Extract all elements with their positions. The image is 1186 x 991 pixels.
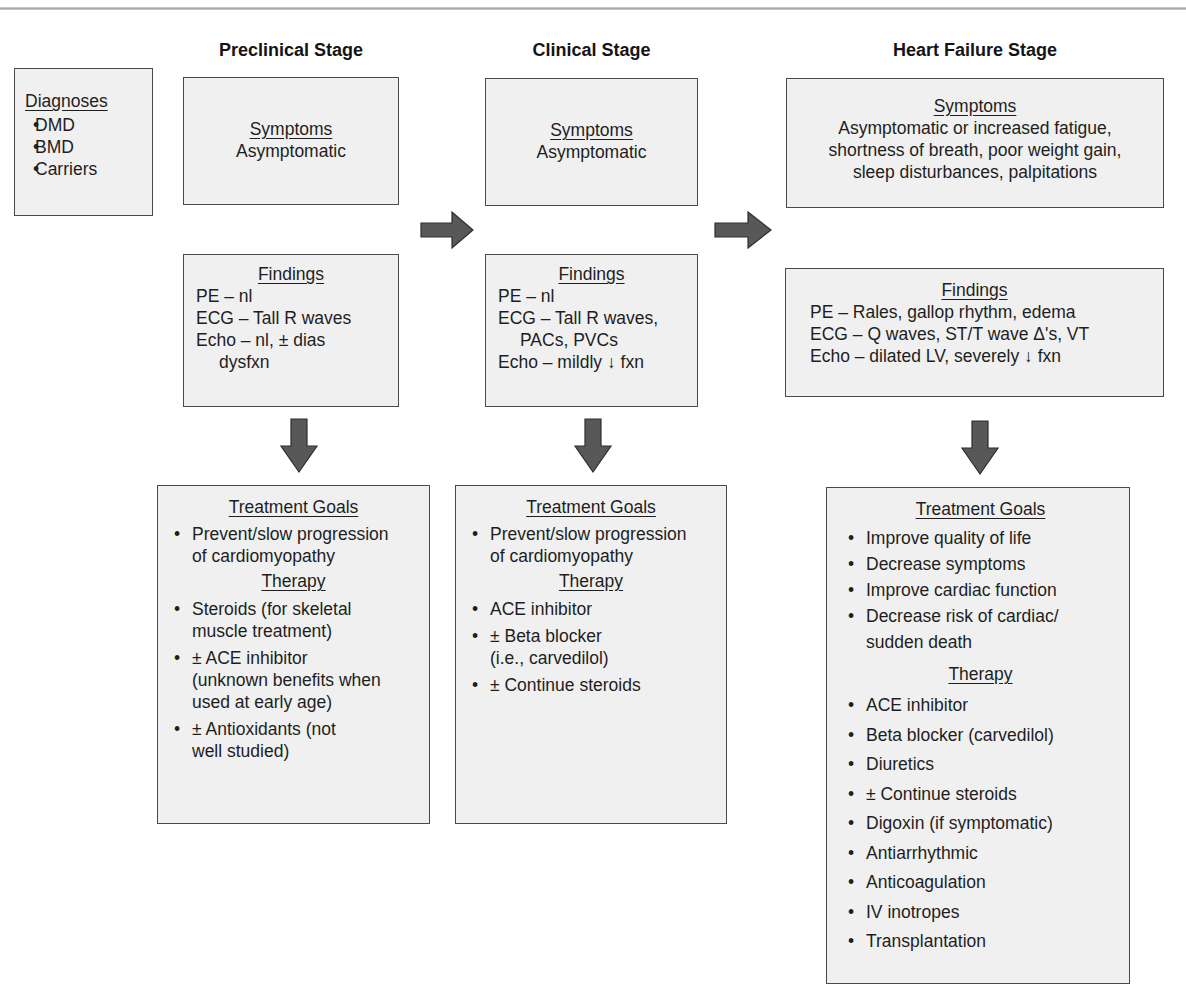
goal-item: Decrease risk of cardiac/sudden death [840,603,1121,655]
findings-heading: Findings [184,263,398,285]
arrow-down-icon [279,418,319,474]
preclinical-symptoms-box: Symptoms Asymptomatic [183,77,399,205]
diagnoses-heading: Diagnoses [25,90,152,112]
findings-heading: Findings [786,279,1163,301]
finding-ecg: ECG – Q waves, ST/T wave Δ's, VT [810,323,1163,345]
therapy-item: ± Beta blocker(i.e., carvedilol) [464,625,718,669]
therapy-item: ± Continue steroids [464,674,718,696]
symptoms-heading: Symptoms [787,95,1163,117]
preclinical-treatment-box: Treatment Goals Prevent/slow progression… [157,485,430,824]
therapy-item: Steroids (for skeletalmuscle treatment) [166,598,421,642]
finding-pe: PE – Rales, gallop rhythm, edema [810,301,1163,323]
finding-echo-cont: dysfxn [196,351,398,373]
treatment-goals-list: Prevent/slow progressionof cardiomyopath… [464,523,718,567]
diagnosis-item: DMD [25,114,152,136]
stage-title-heart-failure: Heart Failure Stage [786,40,1164,61]
top-rule [0,7,1186,10]
goal-item: Prevent/slow progressionof cardiomyopath… [464,523,718,567]
therapy-list: ACE inhibitor Beta blocker (carvedilol) … [840,691,1121,957]
therapy-heading: Therapy [464,570,718,592]
symptoms-text: Asymptomatic [486,141,697,163]
diagnoses-box: Diagnoses DMD BMD Carriers [14,68,153,216]
finding-echo: Echo – mildly ↓ fxn [498,351,697,373]
stage-title-clinical: Clinical Stage [485,40,698,61]
heart-failure-treatment-box: Treatment Goals Improve quality of life … [826,487,1130,984]
finding-ecg-cont: PACs, PVCs [498,329,697,351]
goal-item: Improve cardiac function [840,577,1121,603]
symptoms-heading: Symptoms [184,118,398,140]
therapy-item: Transplantation [840,927,1121,957]
clinical-symptoms-box: Symptoms Asymptomatic [485,78,698,206]
arrow-down-icon [573,418,613,474]
finding-ecg: ECG – Tall R waves [196,307,398,329]
findings-heading: Findings [486,263,697,285]
arrow-right-icon [420,210,476,250]
therapy-item: Antiarrhythmic [840,839,1121,869]
therapy-list: Steroids (for skeletalmuscle treatment) … [166,598,421,762]
arrow-down-icon [960,420,1000,476]
therapy-list: ACE inhibitor ± Beta blocker(i.e., carve… [464,598,718,696]
therapy-item: ± ACE inhibitor(unknown benefits whenuse… [166,647,421,713]
arrow-right-icon [714,210,774,250]
therapy-item: Anticoagulation [840,868,1121,898]
finding-ecg: ECG – Tall R waves, [498,307,697,329]
treatment-goals-list: Prevent/slow progressionof cardiomyopath… [166,523,421,567]
clinical-findings-box: Findings PE – nl ECG – Tall R waves, PAC… [485,254,698,407]
symptoms-text: Asymptomatic [184,140,398,162]
therapy-item: IV inotropes [840,898,1121,928]
symptoms-heading: Symptoms [486,119,697,141]
therapy-item: Diuretics [840,750,1121,780]
goal-item: Improve quality of life [840,525,1121,551]
symptoms-text: shortness of breath, poor weight gain, [787,139,1163,161]
symptoms-text: sleep disturbances, palpitations [787,161,1163,183]
symptoms-text: Asymptomatic or increased fatigue, [787,117,1163,139]
finding-pe: PE – nl [498,285,697,307]
finding-echo: Echo – dilated LV, severely ↓ fxn [810,345,1163,367]
clinical-treatment-box: Treatment Goals Prevent/slow progression… [455,485,727,824]
heart-failure-findings-box: Findings PE – Rales, gallop rhythm, edem… [785,268,1164,397]
preclinical-findings-box: Findings PE – nl ECG – Tall R waves Echo… [183,254,399,407]
therapy-item: Beta blocker (carvedilol) [840,721,1121,751]
treatment-goals-list: Improve quality of life Decrease symptom… [840,525,1121,655]
diagnosis-item: BMD [25,136,152,158]
therapy-item: ± Continue steroids [840,780,1121,810]
stage-title-preclinical: Preclinical Stage [183,40,399,61]
goal-item: Decrease symptoms [840,551,1121,577]
therapy-item: ACE inhibitor [464,598,718,620]
therapy-heading: Therapy [166,570,421,592]
treatment-goals-heading: Treatment Goals [840,498,1121,520]
finding-echo: Echo – nl, ± dias [196,329,398,351]
treatment-goals-heading: Treatment Goals [166,496,421,518]
diagnosis-item: Carriers [25,158,152,180]
therapy-item: Digoxin (if symptomatic) [840,809,1121,839]
therapy-item: ± Antioxidants (notwell studied) [166,718,421,762]
goal-item: Prevent/slow progressionof cardiomyopath… [166,523,421,567]
heart-failure-symptoms-box: Symptoms Asymptomatic or increased fatig… [786,78,1164,208]
therapy-item: ACE inhibitor [840,691,1121,721]
diagnoses-list: DMD BMD Carriers [25,114,152,180]
therapy-heading: Therapy [840,663,1121,685]
treatment-goals-heading: Treatment Goals [464,496,718,518]
finding-pe: PE – nl [196,285,398,307]
